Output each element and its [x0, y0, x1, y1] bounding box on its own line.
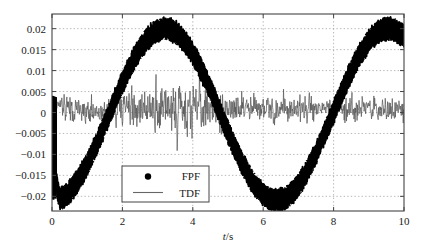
- y-tick-label: 0: [41, 107, 47, 119]
- x-tick-label: 2: [120, 215, 126, 227]
- chart-legend: FPF TDF: [122, 166, 209, 202]
- y-tick-label: −0.02: [21, 190, 46, 202]
- y-tick-label: 0.02: [27, 23, 46, 35]
- y-tick-label: 0.01: [27, 65, 46, 77]
- y-tick-label: −0.01: [21, 148, 46, 160]
- legend-label-tdf: TDF: [179, 187, 200, 199]
- legend-label-fpf: FPF: [182, 170, 200, 182]
- x-axis-title: t/s: [223, 230, 233, 242]
- x-tick-label: 8: [331, 215, 337, 227]
- x-tick-label: 6: [260, 215, 266, 227]
- y-tick-label: −0.015: [15, 169, 46, 181]
- chart-plot-area: 0.020.0150.010.0050−0.005−0.01−0.015−0.0…: [0, 0, 421, 249]
- y-tick-label: 0.015: [21, 44, 46, 56]
- x-tick-label: 0: [49, 215, 55, 227]
- figure-background: [0, 0, 421, 249]
- chart-figure: 0.020.0150.010.0050−0.005−0.01−0.015−0.0…: [0, 0, 421, 249]
- series-fpf-initial-transient: [52, 96, 56, 200]
- y-tick-label: −0.005: [15, 127, 46, 139]
- x-tick-label: 10: [399, 215, 411, 227]
- x-tick-label: 4: [190, 215, 196, 227]
- y-tick-label: 0.005: [21, 86, 46, 98]
- legend-marker-fpf-dot-icon: [145, 173, 151, 179]
